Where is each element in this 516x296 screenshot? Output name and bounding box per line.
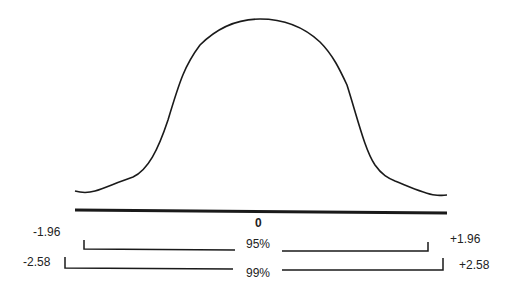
center-label: 0: [255, 216, 262, 230]
bracket-95-right: [282, 242, 428, 251]
upper-label-99: +2.58: [459, 258, 489, 272]
upper-label-95: +1.96: [450, 232, 480, 246]
bell-curve: [75, 19, 447, 195]
bracket-99-right: [282, 258, 443, 270]
level-label-99: 99%: [246, 266, 270, 280]
baseline-axis: [75, 210, 447, 213]
lower-label-99: -2.58: [23, 255, 50, 269]
bracket-99: [65, 257, 233, 269]
bracket-95: [84, 240, 235, 250]
lower-label-95: -1.96: [33, 225, 60, 239]
level-label-95: 95%: [246, 237, 270, 251]
diagram-canvas: [0, 0, 516, 296]
